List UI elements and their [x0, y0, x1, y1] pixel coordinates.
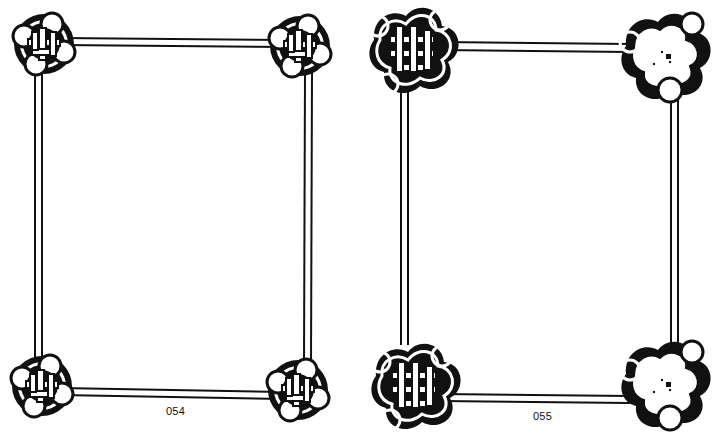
frame-054-top-bar	[60, 38, 286, 47]
frame-054-corner-knot-top-right	[269, 15, 331, 77]
frame-055-right-bar	[671, 95, 678, 345]
frame-055-corner-knot-bottom-left	[370, 344, 461, 430]
frame-054-label: 054	[166, 405, 185, 417]
frame-055-bottom-bar	[440, 394, 630, 403]
frame-055-corner-knot-bottom-right	[620, 341, 711, 430]
frame-055-label: 055	[533, 410, 552, 422]
frame-055-top-bar	[440, 42, 630, 52]
frame-055	[368, 8, 711, 430]
frame-054-corner-knot-bottom-left	[11, 355, 73, 417]
frame-054-bottom-bar	[60, 388, 284, 399]
celtic-frames-canvas: 054 055	[0, 0, 723, 443]
frames-artwork	[0, 0, 723, 443]
frame-054-left-bar	[35, 70, 42, 360]
frame-054	[11, 13, 331, 421]
frame-055-left-bar	[401, 90, 408, 345]
frame-055-corner-knot-top-left	[368, 8, 459, 94]
frame-054-corner-knot-top-left	[13, 13, 75, 75]
frame-055-corner-knot-top-right	[620, 13, 711, 102]
frame-054-right-bar	[304, 72, 312, 366]
frame-054-corner-knot-bottom-right	[267, 359, 329, 421]
